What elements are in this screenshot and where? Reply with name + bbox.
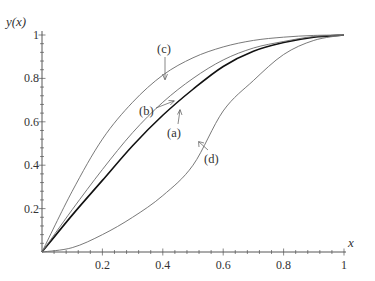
annotation-c: (c) xyxy=(157,42,171,56)
line-chart: 0.20.40.60.810.20.40.60.81 y(x) x (c) (b… xyxy=(0,0,375,281)
ticks xyxy=(39,35,345,256)
x-tick-label: 0.8 xyxy=(276,258,291,272)
y-tick-label: 0.2 xyxy=(24,202,39,216)
y-tick-label: 0.4 xyxy=(24,158,39,172)
curve-c xyxy=(42,35,344,252)
curve-d xyxy=(42,35,344,252)
y-tick-label: 0.8 xyxy=(24,71,39,85)
x-tick-label: 1 xyxy=(341,258,347,272)
curve-a xyxy=(42,35,344,252)
annotations: (c) (b) (a) (d) xyxy=(139,42,219,166)
x-tick-label: 0.2 xyxy=(95,258,110,272)
curve-b xyxy=(42,35,344,252)
tick-labels: 0.20.40.60.810.20.40.60.81 xyxy=(24,28,347,272)
x-tick-label: 0.6 xyxy=(216,258,231,272)
annotation-a: (a) xyxy=(167,126,181,140)
annotation-b: (b) xyxy=(139,104,154,118)
curves xyxy=(42,35,344,252)
x-axis-title: x xyxy=(347,235,354,250)
y-axis-title: y(x) xyxy=(4,14,26,29)
annotation-d: (d) xyxy=(204,152,219,166)
x-tick-label: 0.4 xyxy=(155,258,170,272)
y-tick-label: 0.6 xyxy=(24,115,39,129)
y-tick-label: 1 xyxy=(33,28,39,42)
